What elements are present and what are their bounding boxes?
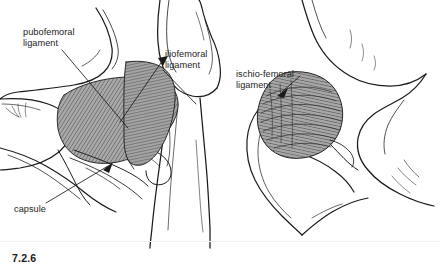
pubis-detail-5 bbox=[25, 103, 26, 117]
label-pubofemoral-ligament: pubofemoral ligament bbox=[23, 27, 75, 49]
femur-posterior-shaft-lower bbox=[302, 198, 368, 235]
femur-posterior-detail-3 bbox=[392, 176, 410, 193]
posterior-hip-panel bbox=[247, 0, 434, 235]
label-ischiofemoral-ligament: ischio-femoral ligament bbox=[236, 69, 294, 91]
label-capsule: capsule bbox=[14, 204, 46, 215]
ilium-detail-1 bbox=[82, 50, 100, 66]
trochanter-detail-1 bbox=[196, 12, 204, 40]
pubis-detail-2 bbox=[6, 108, 19, 117]
posterior-ilium-outline bbox=[302, 0, 426, 86]
posterior-ilium-detail-2 bbox=[362, 44, 364, 61]
femur-posterior-shaft-upper bbox=[302, 154, 354, 192]
posterior-ilium-detail-1 bbox=[350, 30, 352, 48]
iliofemoral-ligament-shading bbox=[118, 55, 188, 175]
figure-number: 7.2.6 bbox=[12, 252, 36, 264]
greater-trochanter-outline bbox=[199, 0, 220, 88]
femur-posterior-detail-2 bbox=[398, 168, 416, 185]
femur-posterior-inner bbox=[312, 204, 342, 218]
figure-separator-rule bbox=[0, 241, 440, 242]
femur-shaft-lateral bbox=[200, 98, 210, 248]
figure-page: pubofemoral ligament iliofemoral ligamen… bbox=[0, 0, 440, 273]
femur-posterior-detail-1 bbox=[404, 160, 419, 177]
pubis-detail-1 bbox=[2, 104, 40, 110]
posterior-ilium-detail-3 bbox=[374, 56, 376, 70]
posterior-capsule-edge bbox=[330, 140, 354, 167]
trochanter-posterior-inner bbox=[384, 100, 404, 154]
posterior-ilium-inner-1 bbox=[312, 0, 326, 38]
femur-shaft-inner-line-2 bbox=[196, 140, 203, 232]
posterior-femur-outline bbox=[357, 74, 434, 206]
capsule-fold-3 bbox=[86, 168, 120, 189]
label-iliofemoral-ligament: iliofemoral ligament bbox=[165, 49, 207, 71]
pubis-detail-4 bbox=[18, 104, 21, 117]
